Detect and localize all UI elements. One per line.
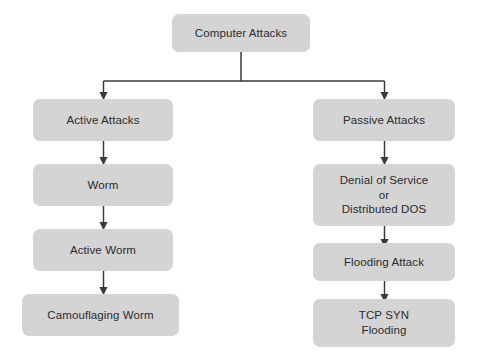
node-camouflaging-worm-text: Camouflaging Worm — [22, 308, 179, 323]
node-passive-attacks[interactable]: Passive Attacks — [313, 99, 455, 141]
node-worm-text: Worm — [33, 178, 173, 193]
node-worm[interactable]: Worm — [33, 164, 173, 206]
node-passive-attacks-text: Passive Attacks — [313, 113, 455, 128]
node-denial-of-service-text: Denial of Service or Distributed DOS — [313, 173, 455, 217]
diagram-canvas: Computer Attacks Active Attacks Worm Act… — [0, 0, 481, 362]
node-active-attacks[interactable]: Active Attacks — [33, 99, 173, 141]
node-camouflaging-worm[interactable]: Camouflaging Worm — [22, 294, 179, 336]
node-flooding-attack[interactable]: Flooding Attack — [313, 243, 455, 281]
node-computer-attacks-text: Computer Attacks — [172, 26, 310, 41]
node-active-worm[interactable]: Active Worm — [33, 229, 173, 271]
node-tcp-syn-flooding-text: TCP SYN Flooding — [313, 308, 455, 337]
node-computer-attacks[interactable]: Computer Attacks — [172, 14, 310, 52]
node-flooding-attack-text: Flooding Attack — [313, 255, 455, 270]
node-tcp-syn-flooding[interactable]: TCP SYN Flooding — [313, 299, 455, 347]
node-active-worm-text: Active Worm — [33, 243, 173, 258]
node-active-attacks-text: Active Attacks — [33, 113, 173, 128]
node-denial-of-service[interactable]: Denial of Service or Distributed DOS — [313, 164, 455, 226]
